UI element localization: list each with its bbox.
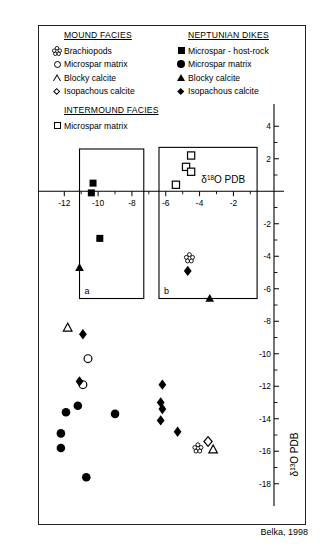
brachiopod-shell-icon — [50, 46, 64, 56]
legend-label-mound-isopachous: Isopachous calcite — [64, 86, 135, 96]
legend-column-dikes: NEPTUNIAN DIKES Microspar - host-rock Mi… — [174, 30, 300, 98]
legend-item-brachiopods: Brachiopods — [50, 44, 168, 58]
filled-square-icon — [174, 47, 188, 54]
filled-diamond-icon — [174, 89, 188, 94]
legend-item-mound-isopachous: Isopachous calcite — [50, 85, 168, 99]
legend-item-dike-isopachous: Isopachous calcite — [174, 85, 300, 99]
legend-item-mound-microspar: Microspar matrix — [50, 58, 168, 72]
legend-label-intermound-microspar: Microspar matrix — [64, 121, 128, 131]
legend-item-intermound-microspar: Microspar matrix — [50, 119, 168, 133]
legend-item-dike-microspar: Microspar matrix — [174, 58, 300, 72]
legend-label-mound-microspar: Microspar matrix — [64, 59, 128, 69]
legend-label-dike-isopachous: Isopachous calcite — [188, 86, 259, 96]
source-credit: Belka, 1998 — [260, 527, 308, 537]
legend-title-dikes: NEPTUNIAN DIKES — [188, 30, 300, 40]
legend-label-dike-hostrock: Microspar - host-rock — [188, 46, 269, 56]
legend-item-mound-blocky: Blocky calcite — [50, 71, 168, 85]
legend-title-mound: MOUND FACIES — [64, 30, 168, 40]
legend-label-mound-blocky: Blocky calcite — [64, 73, 116, 83]
legend-label-brachiopods: Brachiopods — [64, 46, 112, 56]
legend-item-dike-blocky: Blocky calcite — [174, 71, 300, 85]
filled-circle-icon — [174, 60, 188, 68]
open-triangle-icon — [50, 74, 64, 81]
open-circle-icon — [50, 61, 64, 68]
legend-title-intermound: INTERMOUND FACIES — [64, 105, 168, 115]
legend-item-dike-hostrock: Microspar - host-rock — [174, 44, 300, 58]
legend-label-dike-blocky: Blocky calcite — [188, 73, 240, 83]
legend-column-mound: MOUND FACIES Brachiopods Microspar matri… — [50, 30, 168, 133]
legend-label-dike-microspar: Microspar matrix — [188, 59, 252, 69]
open-diamond-icon — [50, 89, 64, 94]
open-square-icon — [50, 122, 64, 129]
filled-triangle-icon — [174, 74, 188, 81]
